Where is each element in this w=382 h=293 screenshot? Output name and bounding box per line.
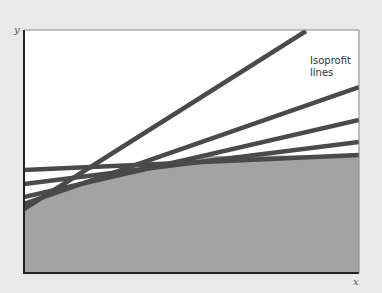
isoprofit-label: Isoprofit lines bbox=[310, 55, 351, 79]
isoprofit-label-line2: lines bbox=[310, 67, 351, 79]
y-axis-label: y bbox=[14, 24, 20, 35]
x-axis-label: x bbox=[353, 276, 359, 287]
isoprofit-label-line1: Isoprofit bbox=[310, 55, 351, 67]
isoprofit-diagram: y x Isoprofit lines bbox=[0, 0, 382, 293]
